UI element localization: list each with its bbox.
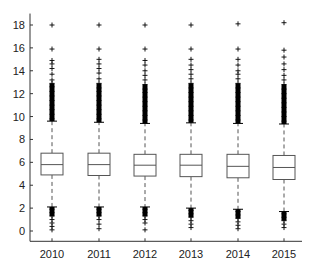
x-tick-label: 2015 xyxy=(272,248,296,260)
box-2014 xyxy=(227,21,249,231)
x-tick-label: 2014 xyxy=(226,248,250,260)
x-axis: 201020112012201320142015 xyxy=(30,238,302,260)
box-2012 xyxy=(134,23,156,233)
y-tick-label: 14 xyxy=(13,65,25,77)
y-tick-label: 4 xyxy=(19,179,25,191)
x-tick-label: 2013 xyxy=(179,248,203,260)
y-tick-label: 16 xyxy=(13,42,25,54)
plot-area xyxy=(41,20,295,232)
y-tick-label: 2 xyxy=(19,202,25,214)
y-tick-label: 12 xyxy=(13,88,25,100)
y-tick-label: 18 xyxy=(13,19,25,31)
x-tick-label: 2011 xyxy=(87,248,111,260)
y-tick-label: 10 xyxy=(13,111,25,123)
outliers xyxy=(50,23,55,233)
y-tick-label: 8 xyxy=(19,133,25,145)
box-2015 xyxy=(273,20,295,230)
box-2010 xyxy=(41,23,63,233)
y-tick-label: 0 xyxy=(19,225,25,237)
y-tick-label: 6 xyxy=(19,156,25,168)
x-tick-label: 2010 xyxy=(40,248,64,260)
box-plot-chart: 024681012141618 201020112012201320142015 xyxy=(0,0,319,264)
box-2013 xyxy=(180,23,202,231)
x-tick-label: 2012 xyxy=(133,248,157,260)
box-2011 xyxy=(88,23,110,232)
y-axis: 024681012141618 xyxy=(13,14,33,242)
iqr-box xyxy=(41,153,63,175)
